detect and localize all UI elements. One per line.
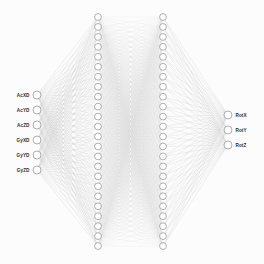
node-hidden-1-24 <box>95 243 102 250</box>
node-hidden-2-15 <box>160 153 167 160</box>
node-hidden-2-21 <box>160 213 167 220</box>
node-hidden-1-20 <box>95 203 102 210</box>
node-hidden-1-23 <box>95 233 102 240</box>
node-hidden-2-14 <box>160 143 167 150</box>
node-hidden-1-2 <box>95 24 102 31</box>
node-input-4 <box>33 136 41 144</box>
network-graph-svg: AcXDAcYDAcZDGyXDGyYDGyZDRotXRotYRotZ <box>0 0 264 264</box>
node-hidden-1-7 <box>95 73 102 80</box>
node-output-2 <box>224 126 232 134</box>
node-label-input-gyyd: GyYD <box>17 153 30 158</box>
node-hidden-2-11 <box>160 113 167 120</box>
node-hidden-2-22 <box>160 223 167 230</box>
node-output-1 <box>224 111 232 119</box>
node-label-output-rotx: RotX <box>236 113 248 118</box>
node-hidden-1-17 <box>95 173 102 180</box>
node-hidden-1-15 <box>95 153 102 160</box>
node-hidden-2-1 <box>160 14 167 21</box>
node-hidden-2-17 <box>160 173 167 180</box>
node-input-1 <box>33 91 41 99</box>
node-hidden-1-18 <box>95 183 102 190</box>
node-hidden-2-2 <box>160 24 167 31</box>
node-hidden-1-12 <box>95 123 102 130</box>
node-hidden-2-16 <box>160 163 167 170</box>
node-output-3 <box>224 141 232 149</box>
node-hidden-2-18 <box>160 183 167 190</box>
node-hidden-1-19 <box>95 193 102 200</box>
node-hidden-2-19 <box>160 193 167 200</box>
node-label-output-roty: RotY <box>236 128 247 133</box>
node-label-input-gyxd: GyXD <box>17 138 30 143</box>
neural-network-diagram: AcXDAcYDAcZDGyXDGyYDGyZDRotXRotYRotZ <box>0 0 264 264</box>
node-hidden-2-10 <box>160 103 167 110</box>
node-hidden-1-14 <box>95 143 102 150</box>
node-hidden-1-16 <box>95 163 102 170</box>
node-input-5 <box>33 151 41 159</box>
node-hidden-1-5 <box>95 53 102 60</box>
node-hidden-1-6 <box>95 63 102 70</box>
node-hidden-2-7 <box>160 73 167 80</box>
node-label-input-gyzd: GyZD <box>17 168 30 173</box>
node-hidden-1-8 <box>95 83 102 90</box>
node-hidden-2-5 <box>160 53 167 60</box>
node-label-input-acxd: AcXD <box>17 93 30 98</box>
node-hidden-2-20 <box>160 203 167 210</box>
node-hidden-2-8 <box>160 83 167 90</box>
node-label-input-acyd: AcYD <box>17 108 30 113</box>
node-input-2 <box>33 106 41 114</box>
node-input-3 <box>33 121 41 129</box>
node-hidden-1-11 <box>95 113 102 120</box>
node-label-input-aczd: AcZD <box>17 123 30 128</box>
node-hidden-2-23 <box>160 233 167 240</box>
node-hidden-2-9 <box>160 93 167 100</box>
node-hidden-2-12 <box>160 123 167 130</box>
node-hidden-2-3 <box>160 34 167 41</box>
node-hidden-1-4 <box>95 43 102 50</box>
node-hidden-2-13 <box>160 133 167 140</box>
node-label-output-rotz: RotZ <box>236 143 247 148</box>
node-hidden-1-10 <box>95 103 102 110</box>
node-hidden-1-9 <box>95 93 102 100</box>
node-hidden-1-1 <box>95 14 102 21</box>
node-hidden-2-4 <box>160 43 167 50</box>
node-input-6 <box>33 166 41 174</box>
node-hidden-1-13 <box>95 133 102 140</box>
node-hidden-1-22 <box>95 223 102 230</box>
node-hidden-2-6 <box>160 63 167 70</box>
node-hidden-1-3 <box>95 34 102 41</box>
node-hidden-2-24 <box>160 243 167 250</box>
node-hidden-1-21 <box>95 213 102 220</box>
